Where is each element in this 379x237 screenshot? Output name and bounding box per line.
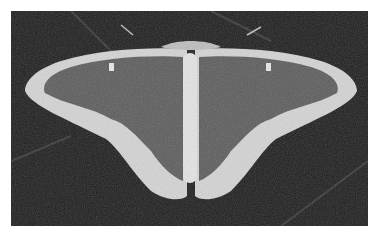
moth-photo xyxy=(11,11,368,226)
moth-illustration xyxy=(11,11,368,226)
grain-overlay xyxy=(11,11,368,226)
